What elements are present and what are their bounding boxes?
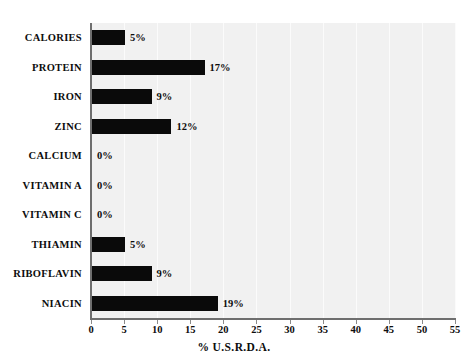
category-label: RIBOFLAVIN: [0, 259, 82, 289]
x-tick-label: 50: [407, 324, 437, 335]
bar-row: CALORIES5%: [0, 23, 468, 53]
x-tick-label: 25: [241, 324, 271, 335]
bar-row: RIBOFLAVIN9%: [0, 259, 468, 289]
bar-row: VITAMIN C0%: [0, 200, 468, 230]
bar: [92, 89, 152, 104]
x-axis-line: [90, 318, 456, 320]
bar-row: IRON9%: [0, 82, 468, 112]
x-tick-label: 30: [275, 324, 305, 335]
bar: [92, 237, 125, 252]
bar: [92, 296, 218, 311]
x-tick-label: 0: [76, 324, 106, 335]
category-label: NIACIN: [0, 289, 82, 319]
bar-value-label: 5%: [130, 230, 146, 260]
bar-row: ZINC12%: [0, 112, 468, 142]
bar-value-label: 0%: [97, 171, 113, 201]
bar-value-label: 0%: [97, 200, 113, 230]
bar-value-label: 17%: [210, 53, 231, 83]
x-tick-label: 55: [440, 324, 468, 335]
bar-value-label: 9%: [157, 82, 173, 112]
x-tick-label: 45: [374, 324, 404, 335]
category-label: THIAMIN: [0, 230, 82, 260]
bar-value-label: 19%: [223, 289, 244, 319]
bar-value-label: 5%: [130, 23, 146, 53]
bar-value-label: 9%: [157, 259, 173, 289]
bar-row: NIACIN19%: [0, 289, 468, 319]
category-label: VITAMIN C: [0, 200, 82, 230]
x-tick-label: 20: [208, 324, 238, 335]
x-tick-label: 35: [308, 324, 338, 335]
category-label: VITAMIN A: [0, 171, 82, 201]
bar-value-label: 12%: [176, 112, 197, 142]
x-axis-title: % U.S.R.D.A.: [0, 341, 468, 353]
category-label: CALORIES: [0, 23, 82, 53]
bar-row: VITAMIN A0%: [0, 171, 468, 201]
x-tick-label: 10: [142, 324, 172, 335]
x-tick-label: 15: [175, 324, 205, 335]
bar: [92, 60, 205, 75]
bar-row: THIAMIN5%: [0, 230, 468, 260]
category-label: ZINC: [0, 112, 82, 142]
bar-row: CALCIUM0%: [0, 141, 468, 171]
category-label: PROTEIN: [0, 53, 82, 83]
bar-row: PROTEIN17%: [0, 53, 468, 83]
x-tick-label: 5: [109, 324, 139, 335]
bar-value-label: 0%: [97, 141, 113, 171]
bar-chart: CALORIES5%PROTEIN17%IRON9%ZINC12%CALCIUM…: [0, 0, 468, 360]
bar: [92, 266, 152, 281]
bar: [92, 30, 125, 45]
bar: [92, 119, 171, 134]
x-tick-label: 40: [341, 324, 371, 335]
category-label: IRON: [0, 82, 82, 112]
category-label: CALCIUM: [0, 141, 82, 171]
